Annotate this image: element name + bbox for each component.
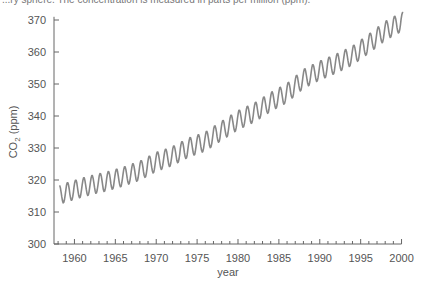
co2-data-line [60,13,404,203]
x-axis: 196019651970197519801985199019952000 [54,239,414,264]
x-axis-title: year [217,266,239,278]
x-tick-label: 1970 [144,252,168,264]
x-tick-label: 1990 [308,252,332,264]
y-tick-label: 340 [28,110,46,122]
x-tick-label: 1975 [185,252,209,264]
y-axis: 300310320330340350360370 [28,14,59,250]
x-tick-label: 1960 [62,252,86,264]
x-tick-label: 1985 [267,252,291,264]
y-tick-label: 330 [28,142,46,154]
y-tick-label: 350 [28,78,46,90]
x-tick-label: 1980 [226,252,250,264]
y-tick-label: 370 [28,14,46,26]
x-tick-label: 1965 [103,252,127,264]
co2-line-chart: 300310320330340350360370 196019651970197… [0,0,426,282]
x-tick-label: 2000 [389,252,413,264]
x-tick-label: 1995 [348,252,372,264]
y-tick-label: 300 [28,238,46,250]
y-axis-title: CO2 (ppm) [7,106,22,159]
y-tick-label: 310 [28,206,46,218]
y-tick-label: 360 [28,46,46,58]
y-tick-label: 320 [28,174,46,186]
